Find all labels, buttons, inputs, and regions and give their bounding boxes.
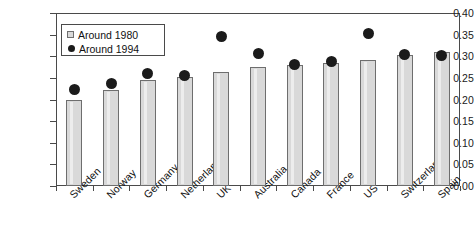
- bar: [360, 60, 376, 186]
- chart-legend: Around 1980 Around 1994: [61, 24, 165, 56]
- bar-highlight: [438, 54, 441, 184]
- data-point-marker: [216, 31, 227, 42]
- data-point-marker: [69, 84, 80, 95]
- legend-label-around-1994: Around 1994: [79, 43, 139, 55]
- data-point-marker: [436, 50, 447, 61]
- data-point-marker: [363, 28, 374, 39]
- bar: [177, 77, 193, 186]
- x-axis-tick-mark: [276, 186, 277, 191]
- y-axis-tick-mark: [50, 100, 56, 101]
- y-axis-tick-mark: [50, 56, 56, 57]
- data-point-marker: [289, 59, 300, 70]
- x-axis-tick-mark: [240, 186, 241, 191]
- legend-square-marker-icon: [67, 31, 74, 38]
- y-axis-tick-label: 0.35: [428, 30, 474, 40]
- y-axis-tick-mark: [50, 35, 56, 36]
- x-axis-tick-mark: [56, 186, 57, 191]
- bar: [66, 100, 82, 186]
- legend-circle-marker-icon: [68, 45, 75, 52]
- bar-highlight: [181, 79, 184, 184]
- x-axis-tick-mark: [93, 186, 94, 191]
- legend-label-around-1980: Around 1980: [78, 29, 138, 41]
- bar: [140, 80, 156, 186]
- legend-item-around-1994: Around 1994: [67, 42, 164, 55]
- data-point-marker: [399, 49, 410, 60]
- bar: [397, 55, 413, 186]
- bar-highlight: [254, 69, 257, 184]
- bar: [287, 65, 303, 186]
- x-axis-tick-mark: [387, 186, 388, 191]
- bar-highlight: [291, 67, 294, 184]
- bar-highlight: [401, 57, 404, 184]
- bar-highlight: [217, 74, 220, 184]
- bar-highlight: [107, 92, 110, 184]
- bar: [323, 63, 339, 186]
- data-point-marker: [253, 48, 264, 59]
- data-point-marker: [326, 56, 337, 67]
- y-axis-tick-mark: [50, 121, 56, 122]
- data-point-marker: [142, 68, 153, 79]
- data-point-marker: [179, 70, 190, 81]
- x-axis-tick-mark: [423, 186, 424, 191]
- x-axis-tick-mark: [460, 186, 461, 191]
- y-axis-tick-mark: [50, 13, 56, 14]
- y-axis-tick-mark: [50, 164, 56, 165]
- x-axis-tick-mark: [350, 186, 351, 191]
- bar: [103, 90, 119, 186]
- bar: [250, 67, 266, 186]
- y-axis-tick-mark: [50, 78, 56, 79]
- bar-highlight: [364, 62, 367, 184]
- bar: [213, 72, 229, 186]
- bar: [434, 52, 450, 186]
- x-axis-tick-mark: [203, 186, 204, 191]
- bar-highlight: [144, 82, 147, 184]
- x-axis-tick-mark: [166, 186, 167, 191]
- x-axis-tick-mark: [313, 186, 314, 191]
- bar-highlight: [327, 65, 330, 184]
- bar-highlight: [70, 102, 73, 184]
- chart-container: 0.000.050.100.150.200.250.300.350.40 Swe…: [0, 0, 474, 241]
- y-axis-tick-label: 0.40: [428, 8, 474, 18]
- y-axis-tick-mark: [50, 143, 56, 144]
- legend-item-around-1980: Around 1980: [67, 28, 164, 41]
- x-axis-tick-mark: [129, 186, 130, 191]
- data-point-marker: [106, 78, 117, 89]
